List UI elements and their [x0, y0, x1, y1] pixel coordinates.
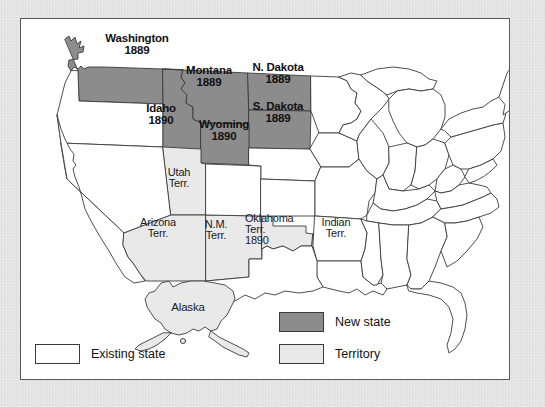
alaska-island	[180, 338, 185, 343]
new-state-swatch	[279, 312, 324, 332]
existing-state-swatch	[35, 344, 80, 364]
state-georgia	[407, 217, 447, 289]
legend-item-existing-state: Existing state	[35, 344, 165, 364]
state-kansas	[261, 179, 315, 216]
state-north-dakota	[248, 73, 311, 111]
us-map-svg	[21, 19, 510, 380]
legend-label-existing-state: Existing state	[91, 347, 165, 361]
territory-swatch	[279, 344, 324, 364]
legend-label-territory: Territory	[335, 347, 380, 361]
legend-item-territory: Territory	[279, 344, 380, 364]
state-michigan-lower	[389, 89, 445, 147]
state-washington	[65, 36, 163, 104]
state-alabama	[379, 223, 411, 289]
state-arkansas	[313, 216, 367, 261]
territory-utah	[163, 147, 206, 215]
state-south-dakota	[249, 110, 311, 149]
state-south-carolina	[441, 217, 483, 267]
state-wyoming	[201, 123, 249, 165]
state-colorado	[206, 164, 261, 216]
legend-item-new-state: New state	[279, 312, 391, 332]
legend-label-new-state: New state	[335, 315, 391, 329]
alaska-panhandle	[209, 331, 249, 357]
territory-alaska	[145, 281, 235, 335]
map-plate: Washington 1889 Montana 1889 N. Dakota 1…	[20, 18, 510, 380]
state-florida	[407, 281, 467, 353]
map-figure: Washington 1889 Montana 1889 N. Dakota 1…	[0, 0, 545, 407]
